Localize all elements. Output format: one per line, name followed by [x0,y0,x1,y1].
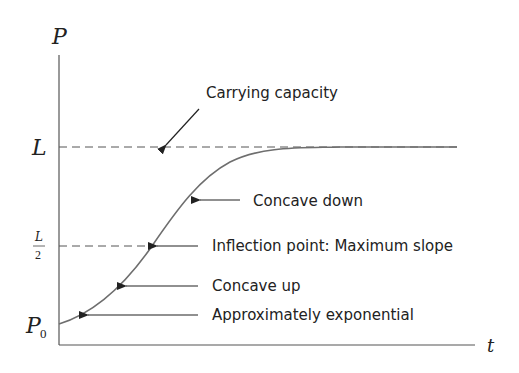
concave-down-label: Concave down [253,192,363,210]
approx-exponential-label: Approximately exponential [212,306,414,324]
carrying-capacity-label: Carrying capacity [206,84,338,102]
tick-label-p0-sub: 0 [40,326,47,341]
logistic-curve [59,147,457,324]
inflection-label: Inflection point: Maximum slope [212,237,453,255]
concave-up-label: Concave up [212,277,301,295]
carrying-capacity-arrow [166,109,199,145]
logistic-growth-diagram: P t L L 2 P 0 Carrying capacity Concave … [0,0,519,373]
tick-label-half-den: 2 [35,248,41,262]
tick-label-L: L [31,135,47,160]
x-axis-label: t [487,335,495,356]
y-axis-label: P [51,24,68,49]
tick-label-half-num: L [34,230,43,244]
